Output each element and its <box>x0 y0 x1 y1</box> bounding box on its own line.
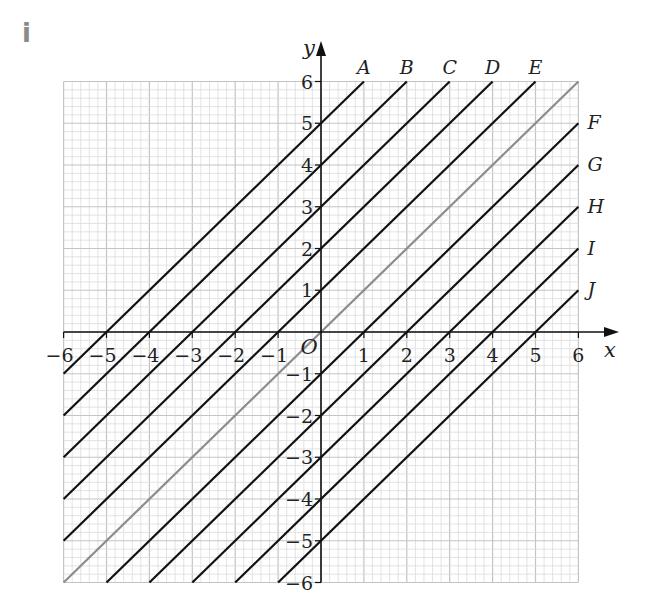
line-c <box>64 82 450 458</box>
y-tick-label: −4 <box>285 488 313 510</box>
origin-label: O <box>300 335 317 359</box>
line-h <box>192 207 578 583</box>
y-tick-label: −5 <box>285 530 313 552</box>
coordinate-grid-diagram: −6−5−4−3−2−1123456654321−1−2−3−4−5−6OxyA… <box>0 0 655 615</box>
y-tick-label: −2 <box>285 405 313 427</box>
y-tick-label: 4 <box>301 154 313 176</box>
y-tick-label: 5 <box>301 112 313 134</box>
x-tick-label: 6 <box>572 344 584 366</box>
x-tick-label: 2 <box>401 344 413 366</box>
x-tick-label: −4 <box>131 344 159 366</box>
y-tick-label: −3 <box>285 446 313 468</box>
line-j <box>278 290 578 582</box>
line-label-f: F <box>586 111 601 133</box>
y-axis-label: y <box>302 36 316 60</box>
line-label-j: J <box>583 278 596 300</box>
y-tick-label: 1 <box>301 279 313 301</box>
line-label-h: H <box>586 195 604 217</box>
x-tick-label: 1 <box>358 344 370 366</box>
y-tick-label: 6 <box>301 71 313 93</box>
x-tick-label: −3 <box>174 344 202 366</box>
line-label-g: G <box>587 153 602 175</box>
line-label-a: A <box>355 56 371 78</box>
x-tick-label: 3 <box>444 344 456 366</box>
y-tick-label: −6 <box>285 572 313 594</box>
y-tick-label: −1 <box>285 363 313 385</box>
y-axis-arrow-icon <box>316 41 326 56</box>
line-a <box>64 82 364 374</box>
line-e <box>64 82 536 541</box>
x-axis-arrow-icon <box>604 327 619 337</box>
line-label-d: D <box>484 56 500 78</box>
line-label-c: C <box>442 56 457 78</box>
labels: −6−5−4−3−2−1123456654321−1−2−3−4−5−6OxyA… <box>46 36 616 594</box>
y-tick-label: 3 <box>301 196 313 218</box>
x-tick-label: −1 <box>260 344 288 366</box>
y-tick-label: 2 <box>301 238 313 260</box>
line-label-e: E <box>528 56 543 78</box>
line-label-b: B <box>399 56 414 78</box>
x-tick-label: 4 <box>487 344 499 366</box>
x-tick-label: −2 <box>217 344 245 366</box>
x-axis-label: x <box>604 338 616 362</box>
x-tick-label: 5 <box>529 344 541 366</box>
line-label-i: I <box>586 237 595 259</box>
x-tick-label: −6 <box>46 344 74 366</box>
x-tick-label: −5 <box>88 344 116 366</box>
